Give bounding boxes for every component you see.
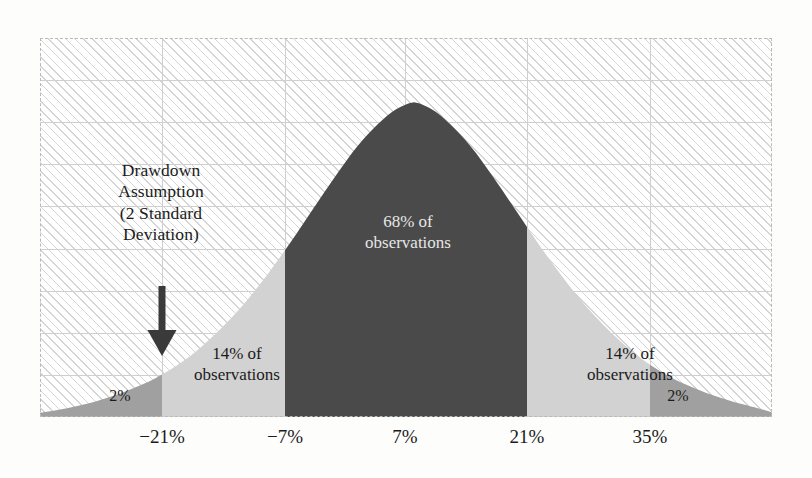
right-tail-label: 2% [648, 386, 708, 406]
left-tail-label: 2% [90, 386, 150, 406]
center-region-label: 68% of observations [318, 212, 498, 253]
x-tick-label-3: 21% [510, 426, 545, 448]
x-tick-label-0: −21% [139, 426, 185, 448]
drawdown-assumption-label: Drawdown Assumption (2 Standard Deviatio… [66, 160, 256, 245]
x-axis: −21% −7% 7% 21% 35% [0, 426, 812, 466]
left-band-label: 14% of observations [152, 344, 322, 385]
chart-figure: Drawdown Assumption (2 Standard Deviatio… [0, 0, 812, 478]
right-band-label: 14% of observations [545, 344, 715, 385]
x-tick-label-2: 7% [392, 426, 417, 448]
x-tick-label-1: −7% [267, 426, 303, 448]
x-tick-label-4: 35% [633, 426, 668, 448]
